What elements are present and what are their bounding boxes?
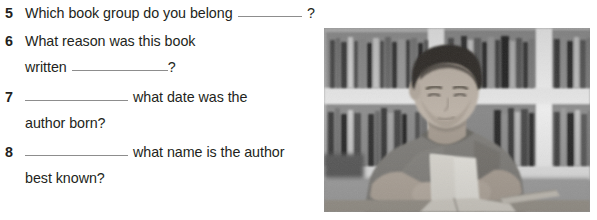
question-item-8: 8 what name is the author best known? (5, 143, 315, 188)
question-line: 5 Which book group do you belong ? (5, 4, 315, 23)
question-text: what name is the author (133, 143, 284, 162)
question-line: author born? (5, 114, 315, 133)
question-text: what date was the (133, 88, 247, 107)
question-line: written ? (5, 58, 315, 77)
question-line: best known? (5, 169, 315, 188)
photo-illustration (324, 28, 590, 212)
question-number: 8 (5, 143, 25, 162)
question-list: 5 Which book group do you belong ? 6 Wha… (0, 0, 318, 220)
library-reading-photo (324, 28, 590, 212)
question-text: Which book group do you belong (25, 4, 233, 23)
question-line: 7 what date was the (5, 88, 315, 107)
question-text: ? (168, 58, 176, 77)
question-line: 8 what name is the author (5, 143, 315, 162)
question-text: What reason was this book (25, 32, 195, 51)
question-line: 6 What reason was this book (5, 32, 315, 51)
question-text: author born? (25, 114, 105, 133)
question-item-6: 6 What reason was this book written ? (5, 32, 315, 77)
question-text: best known? (25, 169, 105, 188)
question-number: 6 (5, 32, 25, 51)
question-item-7: 7 what date was the author born? (5, 88, 315, 133)
answer-blank[interactable] (72, 70, 168, 71)
answer-blank[interactable] (25, 155, 128, 156)
question-number: 5 (5, 4, 25, 23)
question-number: 7 (5, 88, 25, 107)
answer-blank[interactable] (25, 100, 128, 101)
answer-blank[interactable] (238, 16, 303, 17)
question-item-5: 5 Which book group do you belong ? (5, 4, 315, 23)
question-text: ? (307, 4, 315, 23)
question-text: written (25, 58, 67, 77)
